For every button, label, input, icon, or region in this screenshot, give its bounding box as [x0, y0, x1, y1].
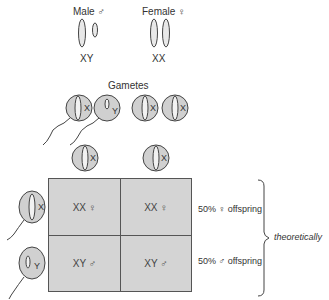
theoretically-note: theoretically	[274, 232, 322, 242]
sperm-x-letter: X	[84, 103, 90, 113]
female-genotype: XX	[152, 53, 165, 64]
cell-xx-female: XX ♀	[120, 179, 191, 235]
male-genotype: XY	[80, 53, 93, 64]
punnett-square: XX ♀ XX ♀ XY ♂ XY ♂	[48, 178, 192, 292]
cell-xx-female: XX ♀	[49, 179, 120, 235]
male-outcome: 50% ♂ offspring	[198, 256, 262, 266]
cell-xy-male: XY ♂	[49, 235, 120, 291]
column-x-letter: X	[90, 153, 96, 163]
row-sperm-x-icon	[7, 191, 45, 240]
row-y-letter: Y	[34, 261, 40, 271]
female-chromosomes-icon	[151, 19, 170, 47]
male-label: Male ♂	[73, 6, 105, 17]
column-x-letter: X	[161, 153, 167, 163]
brace-icon	[258, 180, 269, 296]
female-outcome: 50% ♀ offspring	[198, 204, 262, 214]
row-x-letter: X	[38, 202, 44, 212]
gametes-title: Gametes	[108, 80, 149, 91]
egg-x-letter: X	[150, 103, 156, 113]
male-chromosomes-icon	[79, 19, 98, 47]
sperm-y-letter: Y	[112, 106, 118, 116]
cell-xy-male: XY ♂	[120, 235, 191, 291]
row-sperm-y-icon	[9, 247, 45, 299]
egg-x-letter: X	[180, 103, 186, 113]
female-label: Female ♀	[142, 6, 186, 17]
